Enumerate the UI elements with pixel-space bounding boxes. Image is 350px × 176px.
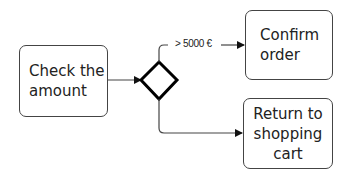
task-label: Confirm order: [260, 25, 319, 65]
task-label: Return to shopping cart: [253, 104, 323, 164]
decision-gateway[interactable]: [141, 62, 177, 99]
condition-label: > 5000 €: [175, 38, 212, 49]
task-confirm-order[interactable]: Confirm order: [245, 10, 333, 80]
edge-gateway-to-confirm: [159, 45, 168, 62]
task-label: Check the amount: [29, 61, 105, 101]
task-return-to-cart[interactable]: Return to shopping cart: [243, 98, 333, 169]
task-check-amount[interactable]: Check the amount: [19, 45, 108, 117]
edge-gateway-to-return: [159, 99, 242, 133]
